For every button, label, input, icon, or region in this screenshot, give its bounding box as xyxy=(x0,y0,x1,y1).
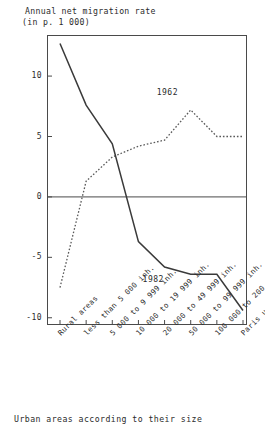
chart-title-line2: (in p. 1 000) xyxy=(22,17,90,28)
chart-title-line1: Annual net migration rate xyxy=(25,6,156,17)
y-axis-tick-label: 0 xyxy=(16,192,42,201)
migration-rate-chart-figure: Annual net migration rate (in p. 1 000) … xyxy=(0,0,265,438)
y-axis-tick-label: -10 xyxy=(16,313,42,322)
x-axis-category-labels: Rural areasless than 5 000 inh.5 000 to … xyxy=(0,325,265,410)
series-line-1962 xyxy=(60,110,243,288)
chart-caption: Urban areas according to their size xyxy=(14,414,202,424)
series-annotation-1962: 1962 xyxy=(157,88,178,97)
y-axis-tick-label: 5 xyxy=(16,132,42,141)
y-axis-tick-label: -5 xyxy=(16,252,42,261)
y-axis-tick-label: 10 xyxy=(16,71,42,80)
